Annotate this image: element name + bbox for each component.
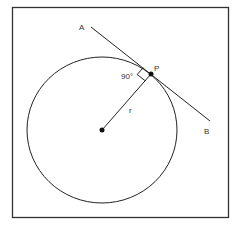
label-r: r [129, 106, 132, 115]
label-p: P [154, 64, 159, 73]
center-point [100, 128, 105, 133]
point-p-dot [149, 72, 154, 77]
label-a: A [79, 23, 85, 32]
frame-border [13, 8, 229, 218]
label-angle: 90° [121, 72, 133, 81]
radius-line [102, 74, 151, 130]
label-b: B [204, 127, 209, 136]
tangent-diagram: A B P r 90° [0, 0, 236, 225]
